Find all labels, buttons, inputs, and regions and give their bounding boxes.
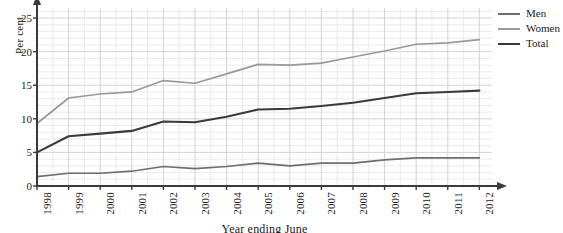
x-tick-label: 2010: [420, 192, 432, 215]
x-tick-label: 2011: [452, 192, 464, 214]
line-chart: 0510152025 19981999200020012002200320042…: [0, 0, 563, 233]
legend-line-swatch: [498, 43, 520, 45]
x-axis-title: Year ending June: [37, 222, 492, 233]
y-axis-title: Per cent: [13, 17, 25, 54]
legend-item-total[interactable]: Total: [498, 36, 560, 51]
x-tick-label: 1998: [41, 192, 53, 215]
x-tick-label: 2001: [136, 192, 148, 215]
chart-legend: MenWomenTotal: [498, 6, 560, 51]
x-tick-label: 1999: [73, 192, 85, 215]
legend-item-women[interactable]: Women: [498, 21, 560, 36]
x-tick-label: 2003: [199, 192, 211, 215]
y-tick-label: 15: [21, 79, 32, 91]
x-tick-label: 2012: [483, 192, 495, 215]
x-tick-label: 2005: [262, 192, 274, 215]
y-tick-label: 5: [27, 146, 33, 158]
x-tick-label: 2006: [294, 192, 306, 215]
legend-item-men[interactable]: Men: [498, 6, 560, 21]
legend-item-label: Men: [526, 8, 546, 19]
y-tick-label: 0: [27, 180, 33, 192]
x-tick-label: 2009: [389, 192, 401, 215]
legend-item-label: Total: [526, 38, 548, 49]
chart-axes: [37, 8, 492, 186]
legend-item-label: Women: [526, 23, 560, 34]
x-tick-label: 2008: [357, 192, 369, 215]
x-tick-label: 2004: [231, 192, 243, 215]
plot-area: 0510152025 19981999200020012002200320042…: [37, 8, 492, 186]
x-tick-label: 2000: [104, 192, 116, 215]
legend-line-swatch: [498, 13, 520, 15]
legend-line-swatch: [498, 28, 520, 30]
y-tick-label: 10: [21, 113, 32, 125]
x-tick-label: 2002: [167, 192, 179, 215]
x-tick-label: 2007: [325, 192, 337, 215]
